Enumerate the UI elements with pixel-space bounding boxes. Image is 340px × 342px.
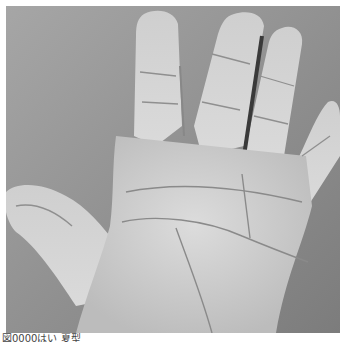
hand-illustration bbox=[6, 6, 340, 333]
index-finger bbox=[134, 11, 182, 146]
palm-photograph bbox=[6, 6, 340, 333]
figure-caption: 図0000はい 夏型 bbox=[2, 333, 81, 342]
